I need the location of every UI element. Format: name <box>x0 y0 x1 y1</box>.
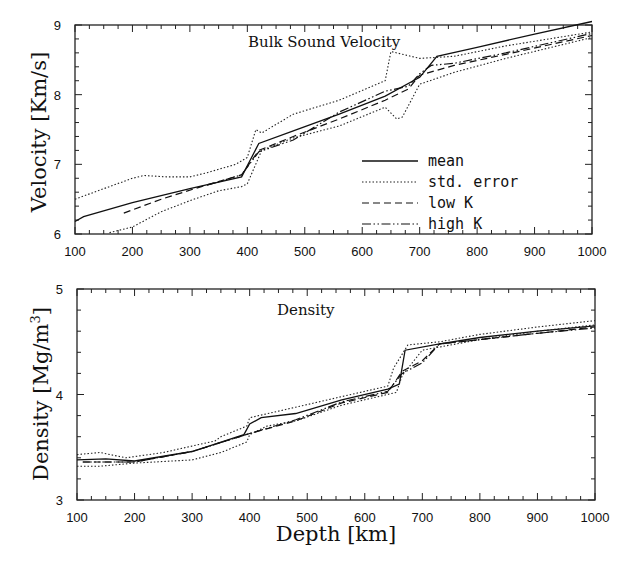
x-tick-label: 500 <box>294 244 316 259</box>
y-tick-label: 9 <box>54 18 61 33</box>
x-tick-label: 800 <box>469 510 491 525</box>
density-y-axis-label: Density [Mg/m3] <box>28 307 53 481</box>
y-tick-label: 7 <box>54 157 61 172</box>
x-tick-label: 100 <box>64 244 86 259</box>
velocity-line-std-error-lower- <box>110 38 593 233</box>
x-tick-label: 1000 <box>581 510 610 525</box>
y-tick-label: 4 <box>56 388 63 403</box>
x-tick-label: 100 <box>66 510 88 525</box>
legend: meanstd. errorlow Khigh K <box>362 152 518 233</box>
legend-label: std. error <box>428 173 518 191</box>
x-tick-label: 400 <box>236 244 258 259</box>
velocity-panel: 10020030040050060070080090010006789 Bulk… <box>27 18 606 259</box>
x-tick-label: 900 <box>527 510 549 525</box>
figure: 10020030040050060070080090010006789 Bulk… <box>0 0 624 563</box>
legend-label: low K <box>428 194 473 212</box>
density-series <box>77 321 595 467</box>
x-tick-label: 1000 <box>578 244 607 259</box>
depth-x-axis-label: Depth [km] <box>276 522 396 546</box>
legend-label: mean <box>428 152 464 170</box>
density-line-high-k <box>83 328 595 462</box>
y-tick-label: 5 <box>56 282 63 297</box>
x-tick-label: 800 <box>466 244 488 259</box>
velocity-panel-title: Bulk Sound Velocity <box>248 33 401 51</box>
velocity-y-axis-label: Velocity [Km/s] <box>27 52 51 213</box>
y-tick-label: 3 <box>56 493 63 508</box>
x-tick-label: 900 <box>524 244 546 259</box>
y-tick-label: 8 <box>54 88 61 103</box>
density-plot-frame <box>77 289 595 500</box>
density-line-mean <box>77 326 595 461</box>
x-tick-label: 200 <box>122 244 144 259</box>
velocity-axis-ticks: 10020030040050060070080090010006789 <box>54 18 607 259</box>
legend-label: high K <box>428 215 482 233</box>
y-tick-label: 6 <box>54 227 61 242</box>
x-tick-label: 600 <box>351 244 373 259</box>
density-panel: 1002003004005006007008009001000345 Densi… <box>28 282 609 546</box>
velocity-series <box>75 22 592 233</box>
density-panel-title: Density <box>277 301 335 319</box>
x-tick-label: 300 <box>181 510 203 525</box>
density-line-std-error-upper- <box>77 321 595 458</box>
x-tick-label: 400 <box>239 510 261 525</box>
density-line-low-k <box>83 327 595 462</box>
x-tick-label: 300 <box>179 244 201 259</box>
velocity-line-low-k <box>124 36 592 214</box>
x-tick-label: 700 <box>409 244 431 259</box>
density-y-label-main: Density [Mg/m <box>29 323 53 480</box>
x-tick-label: 200 <box>124 510 146 525</box>
density-y-label-superscript: 3 <box>28 315 43 323</box>
density-line-std-error-lower- <box>77 325 595 466</box>
x-tick-label: 700 <box>411 510 433 525</box>
density-y-label-end: ] <box>29 307 53 315</box>
velocity-line-high-k <box>207 33 592 185</box>
